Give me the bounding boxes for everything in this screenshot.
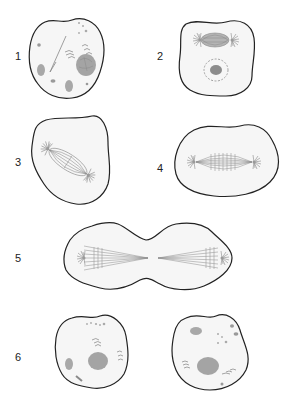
cell-6b-mitochondrion bbox=[190, 327, 202, 335]
cell-4 bbox=[175, 125, 279, 197]
cell-6b-nucleus bbox=[197, 357, 219, 375]
cell-2-chromatin bbox=[210, 65, 222, 75]
cell-6b-membrane bbox=[172, 315, 248, 390]
cell-5 bbox=[64, 223, 232, 290]
cell-2-membrane bbox=[179, 21, 254, 96]
cell-6a-mitochondrion bbox=[65, 358, 73, 370]
cell-3 bbox=[32, 116, 110, 204]
cell-6b-vesicle bbox=[221, 383, 224, 386]
cell-1-mitochondrion bbox=[65, 80, 73, 92]
cell-4-membrane bbox=[175, 125, 279, 197]
cell-6b-vesicle bbox=[230, 324, 234, 328]
cell-6-daughter-left bbox=[55, 315, 128, 388]
cell-1-vesicle bbox=[37, 43, 41, 47]
cell-6a-nucleus bbox=[88, 352, 108, 370]
cell-1-nucleus bbox=[76, 54, 96, 76]
cell-2 bbox=[179, 21, 254, 96]
cell-1-vesicle bbox=[86, 83, 89, 86]
cell-1-vesicle bbox=[51, 79, 56, 83]
cell-1 bbox=[29, 19, 104, 99]
cell-1-mitochondrion bbox=[37, 64, 45, 76]
diagram-canvas bbox=[0, 0, 291, 400]
cell-6b-vesicle bbox=[234, 332, 239, 336]
cell-6-daughter-right bbox=[172, 315, 248, 390]
